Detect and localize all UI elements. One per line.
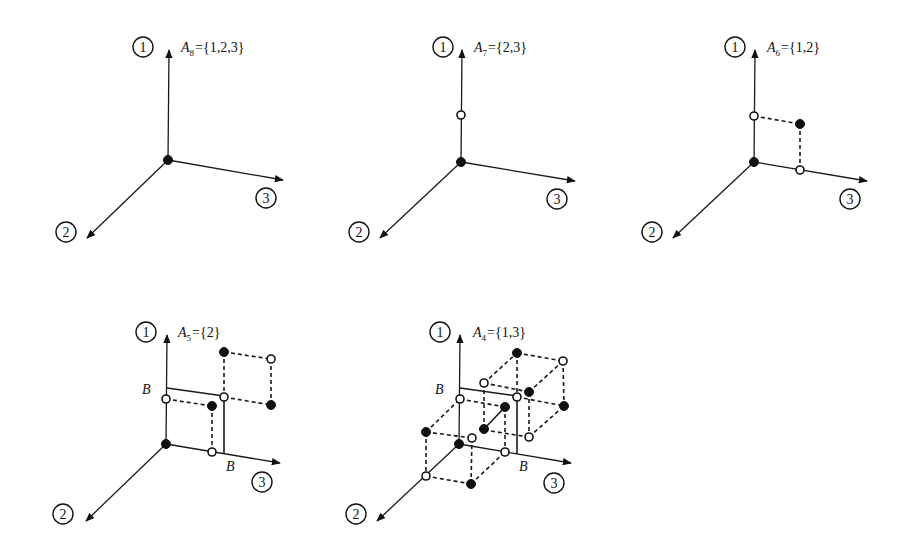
axis-3-arrow <box>461 162 575 181</box>
axis-3-label: 3 <box>252 472 272 492</box>
axes <box>86 335 280 521</box>
filled-point <box>162 440 171 449</box>
dashed-edge <box>224 352 271 359</box>
svg-text:3: 3 <box>259 475 266 490</box>
axes <box>673 50 867 238</box>
filled-point <box>796 120 805 129</box>
axis-2-arrow <box>87 160 168 238</box>
open-point <box>422 472 430 480</box>
panel-a4: 1 2 3 A4={1,3} B B <box>346 322 571 524</box>
filled-point <box>457 158 466 167</box>
axis-2-label: 2 <box>642 222 662 242</box>
filled-point <box>220 348 229 357</box>
axis-3-label: 3 <box>256 188 276 208</box>
svg-text:1: 1 <box>440 40 447 55</box>
filled-point <box>513 349 522 358</box>
axis-3-label: 3 <box>544 473 564 493</box>
dashed-edge <box>754 116 800 124</box>
dashed-edge <box>517 397 564 406</box>
axis-1-label: 1 <box>725 37 745 57</box>
filled-point <box>164 156 173 165</box>
axis-2-label: 2 <box>56 222 76 242</box>
open-point <box>480 379 488 387</box>
open-point <box>220 393 228 401</box>
dashed-edge <box>426 432 472 438</box>
filled-point <box>267 401 276 410</box>
axis-3-arrow <box>459 444 571 463</box>
set-label: A4={1,3} <box>472 325 526 343</box>
dashed-edge <box>426 399 460 432</box>
axes <box>380 50 575 238</box>
axis-2-arrow <box>380 162 461 238</box>
open-point <box>559 357 567 365</box>
boundary-label: B <box>519 459 528 474</box>
svg-text:1: 1 <box>732 40 739 55</box>
open-point <box>796 166 804 174</box>
svg-text:2: 2 <box>353 507 360 522</box>
axis-2-arrow <box>673 162 754 238</box>
axis-3-arrow <box>754 162 867 181</box>
svg-text:3: 3 <box>263 191 270 206</box>
svg-text:1: 1 <box>143 325 150 340</box>
set-label: A8={1,2,3} <box>180 40 244 58</box>
svg-text:1: 1 <box>140 40 147 55</box>
axis-1-arrow <box>754 50 755 162</box>
axis-1-arrow <box>459 335 460 444</box>
dashed-edge <box>563 361 564 406</box>
axis-2-arrow <box>86 444 166 521</box>
svg-text:3: 3 <box>554 192 561 207</box>
filled-point <box>501 403 510 412</box>
open-point <box>208 448 216 456</box>
axis-1-arrow <box>166 335 167 444</box>
open-point <box>468 434 476 442</box>
svg-text:3: 3 <box>551 476 558 491</box>
open-point <box>162 395 170 403</box>
dashed-edge <box>484 383 529 392</box>
axis-1-arrow <box>461 50 462 162</box>
axis-2-label: 2 <box>346 504 366 524</box>
axis-2-label: 2 <box>349 222 369 242</box>
boundary-line <box>460 388 517 396</box>
axis-3-arrow <box>168 160 283 180</box>
svg-text:2: 2 <box>649 225 656 240</box>
filled-point <box>455 440 464 449</box>
axis-1-label: 1 <box>430 322 450 342</box>
dashed-edge <box>471 438 472 484</box>
axis-3-arrow <box>166 444 280 463</box>
dashed-edge <box>166 399 212 406</box>
panel-a6: 1 2 3 A6={1,2} <box>642 37 867 242</box>
dashed-edge <box>517 353 563 361</box>
filled-point <box>750 158 759 167</box>
svg-text:2: 2 <box>63 225 70 240</box>
open-point <box>457 111 465 119</box>
open-point <box>501 448 509 456</box>
set-label: A6={1,2} <box>766 40 820 58</box>
filled-point <box>480 425 489 434</box>
svg-text:2: 2 <box>356 225 363 240</box>
open-point <box>750 112 758 120</box>
axis-1-label: 1 <box>136 322 156 342</box>
boundary-label: B <box>226 459 235 474</box>
svg-text:1: 1 <box>437 325 444 340</box>
open-point <box>456 395 464 403</box>
open-point <box>267 355 275 363</box>
open-point <box>525 433 533 441</box>
filled-point <box>422 428 431 437</box>
lattice-diagram-figure: 1 2 3 A8={1,2,3} 1 2 3 A7= <box>0 0 904 557</box>
svg-text:2: 2 <box>60 507 67 522</box>
axis-3-label: 3 <box>840 189 860 209</box>
panel-a5: 1 2 3 A5={2} B B <box>53 322 280 524</box>
filled-point <box>208 402 217 411</box>
set-label: A7={2,3} <box>473 40 527 58</box>
panel-a8: 1 2 3 A8={1,2,3} <box>56 37 283 242</box>
dashed-edge <box>484 353 517 383</box>
dashed-edge <box>460 399 505 407</box>
axis-3-label: 3 <box>547 189 567 209</box>
dashed-edge <box>224 397 271 405</box>
set-label: A5={2} <box>177 325 220 343</box>
filled-point <box>525 388 534 397</box>
filled-point <box>467 480 476 489</box>
axis-1-label: 1 <box>433 37 453 57</box>
axis-1-label: 1 <box>133 37 153 57</box>
boundary-label: B <box>435 382 444 397</box>
